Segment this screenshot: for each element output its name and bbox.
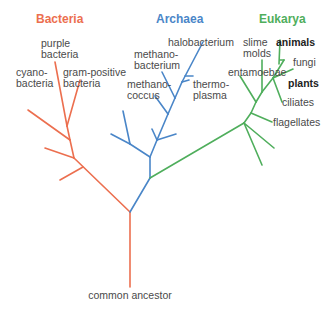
label-line: bacteria (41, 49, 78, 60)
label-common-ancestor: common ancestor (80, 290, 180, 301)
label-methanobacterium: methano- bacterium (134, 49, 180, 71)
label-gram-positive-bacteria: gram-positive bacteria (63, 67, 126, 89)
label-flagellates: flagellates (273, 117, 320, 128)
domain-eukarya: Eukarya (259, 12, 306, 26)
label-entamoebae: entamoebae (228, 67, 286, 78)
label-thermoplasma: thermo- plasma (193, 79, 229, 101)
bacteria-branches (28, 62, 130, 287)
label-slime-molds: slime molds (243, 37, 271, 59)
label-cyanobacteria: cyano- bacteria (16, 67, 53, 89)
label-ciliates: ciliates (282, 97, 314, 108)
label-plants: plants (288, 78, 319, 89)
label-line: bacteria (16, 78, 53, 89)
label-line: plasma (193, 90, 229, 101)
label-line: bacteria (63, 78, 126, 89)
domain-archaea: Archaea (156, 12, 203, 26)
label-line: coccus (127, 90, 171, 101)
label-halobacterium: halobacterium (168, 37, 234, 48)
label-line: molds (243, 48, 271, 59)
label-purple-bacteria: purple bacteria (41, 38, 78, 60)
label-fungi: fungi (293, 57, 316, 68)
label-line: bacterium (134, 60, 180, 71)
label-methanococcus: methano- coccus (127, 79, 171, 101)
label-animals: animals (276, 37, 315, 48)
domain-bacteria: Bacteria (36, 12, 83, 26)
